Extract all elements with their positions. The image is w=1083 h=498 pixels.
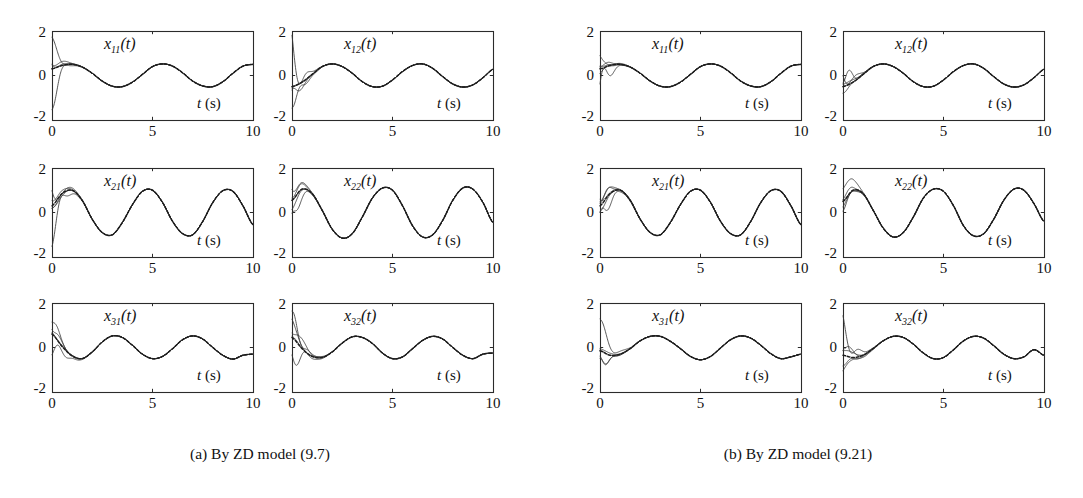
trajectory-curve	[292, 187, 493, 238]
y-tick-label: 2	[18, 297, 46, 312]
y-tick-label: 2	[566, 162, 594, 177]
panel-variable-label: x12(t)	[344, 36, 376, 55]
x-tick-label: 10	[786, 261, 816, 276]
var-arg: (t)	[361, 35, 376, 52]
x-tick-label: 10	[1029, 396, 1059, 411]
x-tick-label: 10	[478, 396, 508, 411]
y-tick-label: -2	[809, 381, 837, 396]
trajectory-curve	[843, 336, 1044, 366]
x-tick-label: 10	[238, 261, 268, 276]
trajectory-curve	[600, 187, 801, 236]
x-tick-label: 0	[277, 124, 307, 139]
x-axis-label: t (s)	[988, 368, 1012, 383]
x-tick-label: 0	[37, 124, 67, 139]
x-tick-label: 10	[478, 124, 508, 139]
plot-panel-b-x32	[843, 303, 1045, 393]
y-tick-label: 2	[566, 25, 594, 40]
x-tick-label: 0	[828, 124, 858, 139]
plot-frame	[844, 169, 1045, 258]
plot-panel-a-x32	[292, 303, 494, 393]
x-axis-label: t (s)	[745, 368, 769, 383]
y-tick-label: 0	[18, 205, 46, 220]
x-axis-label: t (s)	[437, 233, 461, 248]
reference-curve	[292, 336, 493, 359]
x-tick-label: 0	[585, 261, 615, 276]
trajectory-curve	[292, 311, 493, 359]
y-tick-label: 2	[258, 162, 286, 177]
x-tick-label: 0	[37, 261, 67, 276]
var-subscript: 32	[902, 316, 912, 327]
var-subscript: 32	[351, 316, 361, 327]
plot-panel-b-x22	[843, 168, 1045, 258]
y-tick-label: -2	[809, 246, 837, 261]
y-tick-label: 2	[809, 162, 837, 177]
y-tick-label: 0	[258, 205, 286, 220]
x-axis-label: t (s)	[988, 233, 1012, 248]
trajectory-curve	[843, 188, 1044, 237]
trajectory-curve	[52, 37, 253, 87]
var-subscript: 11	[111, 44, 120, 55]
y-tick-label: 2	[809, 25, 837, 40]
panel-variable-label: x31(t)	[652, 308, 684, 327]
var-subscript: 12	[351, 44, 361, 55]
trajectory-curve	[843, 188, 1044, 237]
x-tick-label: 5	[929, 124, 959, 139]
x-tick-label: 10	[786, 124, 816, 139]
var-arg: (t)	[121, 307, 136, 324]
var-arg: (t)	[361, 172, 376, 189]
x-tick-label: 5	[138, 396, 168, 411]
var-arg: (t)	[669, 307, 684, 324]
plot-frame	[293, 304, 494, 393]
panel-variable-label: x21(t)	[104, 173, 136, 192]
panel-variable-label: x32(t)	[895, 308, 927, 327]
plot-panel-a-x11	[52, 31, 254, 121]
trajectory-curve	[843, 187, 1044, 237]
plot-frame	[293, 169, 494, 258]
axis-label-unit: (s)	[749, 95, 769, 111]
x-tick-label: 0	[37, 396, 67, 411]
y-tick-label: -2	[566, 246, 594, 261]
plot-frame	[601, 169, 802, 258]
x-axis-label: t (s)	[988, 96, 1012, 111]
trajectory-curve	[843, 316, 1044, 359]
axis-label-unit: (s)	[992, 232, 1012, 248]
figure-caption-group-b: (b) By ZD model (9.21)	[648, 446, 948, 462]
x-tick-label: 5	[929, 261, 959, 276]
x-tick-label: 0	[828, 396, 858, 411]
x-tick-label: 5	[686, 124, 716, 139]
trajectory-curve	[600, 189, 801, 236]
y-tick-label: 0	[18, 340, 46, 355]
x-tick-label: 5	[686, 261, 716, 276]
y-tick-label: 2	[258, 25, 286, 40]
y-tick-label: 2	[809, 297, 837, 312]
x-tick-label: 10	[238, 124, 268, 139]
trajectory-curve	[52, 189, 253, 236]
var-subscript: 21	[111, 181, 121, 192]
panel-variable-label: x32(t)	[344, 308, 376, 327]
x-tick-label: 0	[828, 261, 858, 276]
x-tick-label: 10	[1029, 261, 1059, 276]
var-arg: (t)	[361, 307, 376, 324]
trajectory-curve	[292, 319, 493, 359]
plot-frame	[601, 32, 802, 121]
trajectory-curve	[52, 189, 253, 236]
trajectory-curve	[600, 187, 801, 236]
y-tick-label: 0	[258, 68, 286, 83]
var-arg: (t)	[912, 172, 927, 189]
figure-caption-group-a: (a) By ZD model (9.7)	[110, 446, 410, 462]
trajectory-curve	[292, 187, 493, 238]
x-axis-label: t (s)	[437, 368, 461, 383]
x-tick-label: 5	[929, 396, 959, 411]
plot-frame	[53, 169, 254, 258]
trajectory-curve	[292, 64, 493, 108]
y-tick-label: 0	[809, 68, 837, 83]
x-tick-label: 5	[138, 261, 168, 276]
y-tick-label: -2	[258, 381, 286, 396]
reference-curve	[292, 187, 493, 238]
x-axis-label: t (s)	[197, 368, 221, 383]
reference-curve	[52, 64, 253, 87]
x-tick-label: 5	[686, 396, 716, 411]
trajectory-curve	[600, 189, 801, 236]
x-tick-label: 0	[277, 261, 307, 276]
trajectory-curve	[52, 189, 253, 246]
